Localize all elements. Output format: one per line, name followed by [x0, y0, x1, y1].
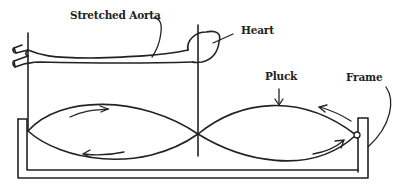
- diagram-drawing: [0, 0, 407, 190]
- aorta-standing-wave-diagram: Stretched Aorta Heart Pluck Frame: [0, 0, 407, 190]
- motion-arrows: [70, 105, 351, 157]
- label-pluck: Pluck: [265, 70, 297, 82]
- string-left-loop-bottom: [28, 131, 198, 159]
- frame-inner: [18, 119, 358, 170]
- aorta-leader: [152, 18, 161, 57]
- heart-leader: [213, 34, 233, 43]
- string-anchor-ring: [354, 132, 360, 138]
- string-right-loop-top: [198, 106, 356, 135]
- string-left-loop-top: [28, 104, 198, 134]
- label-stretched-aorta: Stretched Aorta: [70, 9, 161, 21]
- frame-outer: [18, 118, 368, 178]
- label-frame: Frame: [346, 71, 382, 83]
- pluck-arrow: [275, 89, 283, 105]
- heart: [188, 31, 220, 62]
- stretched-aorta-tube: [13, 45, 193, 67]
- frame-leader: [368, 87, 391, 147]
- label-heart: Heart: [241, 24, 274, 36]
